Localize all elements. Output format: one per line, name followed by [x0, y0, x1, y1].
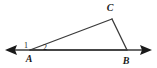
geometry-figure: A B C 1 2: [0, 0, 157, 68]
angle-label-2: 2: [43, 43, 47, 52]
vertex-label-A: A: [25, 53, 33, 64]
angle-label-1: 1: [24, 41, 28, 50]
segment-CB: [112, 19, 127, 50]
vertex-label-B: B: [122, 55, 130, 66]
geometry-canvas: A B C 1 2: [0, 0, 157, 68]
vertex-label-C: C: [107, 2, 114, 13]
